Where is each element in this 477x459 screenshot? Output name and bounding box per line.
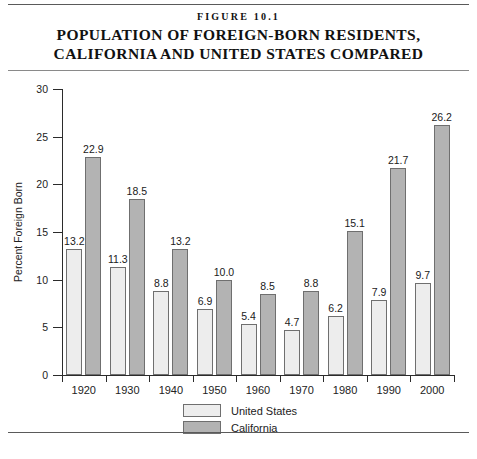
divider-title <box>8 70 469 71</box>
divider-top <box>8 4 469 5</box>
x-tick-mark <box>193 375 194 382</box>
bar-united-states-2000 <box>415 283 431 375</box>
bar-united-states-1950 <box>197 309 213 375</box>
figure-number: FIGURE 10.1 <box>0 11 477 22</box>
bar-value-label: 10.0 <box>202 266 246 278</box>
bar-value-label: 21.7 <box>376 154 420 166</box>
bar-united-states-1980 <box>328 316 344 375</box>
y-tick-mark <box>53 184 62 185</box>
bar-value-label: 13.2 <box>158 235 202 247</box>
bar-value-label: 15.1 <box>333 217 377 229</box>
y-tick-label: 15 <box>8 226 48 238</box>
bar-value-label: 26.2 <box>420 111 464 123</box>
y-tick-mark <box>53 89 62 90</box>
y-tick-mark <box>53 327 62 328</box>
bars-layer: 13.222.911.318.58.813.26.910.05.48.54.78… <box>62 89 454 375</box>
bar-united-states-1970 <box>284 330 300 375</box>
bar-california-1940 <box>172 249 188 375</box>
y-tick-label: 0 <box>8 369 48 381</box>
bar-california-1980 <box>347 231 363 375</box>
x-tick-mark <box>236 375 237 382</box>
x-tick-mark <box>149 375 150 382</box>
legend-swatch <box>183 404 221 417</box>
bar-united-states-1960 <box>241 324 257 375</box>
bar-california-1960 <box>260 294 276 375</box>
bar-california-2000 <box>434 125 450 375</box>
bar-value-label: 22.9 <box>71 143 115 155</box>
y-tick-mark <box>53 375 62 376</box>
bar-united-states-1990 <box>371 300 387 375</box>
y-tick-label: 30 <box>8 83 48 95</box>
y-tick-label: 5 <box>8 321 48 333</box>
figure-title-line-1: POPULATION OF FOREIGN-BORN RESIDENTS, <box>0 26 477 43</box>
bar-value-label: 18.5 <box>115 185 159 197</box>
bar-california-1950 <box>216 280 232 375</box>
x-axis-line <box>62 375 454 376</box>
y-tick-label: 25 <box>8 131 48 143</box>
y-tick-mark <box>53 232 62 233</box>
divider-bottom <box>8 432 469 433</box>
x-tick-mark <box>280 375 281 382</box>
bar-value-label: 8.5 <box>246 280 290 292</box>
y-tick-mark <box>53 137 62 138</box>
bar-value-label: 8.8 <box>289 277 333 289</box>
y-tick-mark <box>53 280 62 281</box>
x-tick-mark <box>410 375 411 382</box>
legend-item: United States <box>183 404 477 417</box>
bar-california-1920 <box>85 157 101 375</box>
x-tick-mark <box>106 375 107 382</box>
bar-united-states-1940 <box>153 291 169 375</box>
x-tick-label: 2000 <box>402 384 462 396</box>
x-tick-mark <box>367 375 368 382</box>
bar-chart: Percent Foreign Born 051015202530 192019… <box>0 76 477 396</box>
figure-title-line-2: CALIFORNIA AND UNITED STATES COMPARED <box>0 45 477 62</box>
bar-united-states-1930 <box>110 267 126 375</box>
bar-united-states-1920 <box>66 249 82 375</box>
x-tick-mark <box>323 375 324 382</box>
y-tick-label: 10 <box>8 274 48 286</box>
legend-label: United States <box>231 405 297 417</box>
x-tick-mark <box>454 375 455 382</box>
x-tick-mark <box>62 375 63 382</box>
y-tick-label: 20 <box>8 178 48 190</box>
